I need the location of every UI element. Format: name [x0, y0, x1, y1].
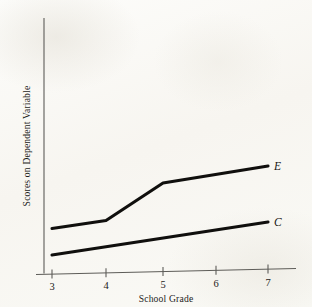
x-tick-label-4: 4	[103, 280, 109, 291]
x-tick-label-6: 6	[213, 278, 218, 289]
chart-figure: 3 4 5 6 7 E C School Grade Scores on Dep…	[0, 0, 312, 307]
x-tick-label-7: 7	[265, 277, 270, 288]
x-axis-line	[36, 269, 296, 275]
line-chart-plot: 3 4 5 6 7 E C School Grade Scores on Dep…	[0, 0, 312, 307]
y-axis-title: Scores on Dependent Variable	[21, 86, 32, 207]
x-axis-title: School Grade	[139, 293, 194, 304]
x-tick-label-3: 3	[49, 281, 54, 292]
series-label-c: C	[274, 216, 282, 228]
series-line-c	[52, 222, 268, 255]
series-label-e: E	[273, 160, 281, 172]
x-tick-label-5: 5	[160, 279, 165, 290]
series-line-e	[52, 166, 268, 229]
